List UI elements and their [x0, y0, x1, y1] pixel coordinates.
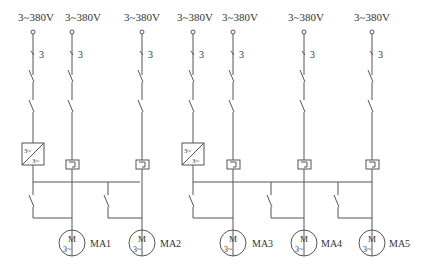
terminal-icon: [231, 30, 235, 34]
switch-icon: [189, 195, 194, 207]
svg-text:3: 3: [199, 49, 204, 60]
overload-relay-icon: [298, 160, 311, 169]
svg-text:3~: 3~: [63, 245, 72, 254]
motor-label: MA3: [252, 238, 273, 249]
supply-label-5: 3~380V: [222, 11, 258, 23]
branch-converter-2: 3 3~ 3~: [182, 30, 204, 182]
switch-icon: [334, 195, 339, 207]
branch-ma2: 3 M 3~ MA2: [104, 30, 181, 256]
switch-icon: [267, 195, 272, 207]
motor-label: MA4: [321, 238, 342, 249]
svg-text:3~: 3~: [224, 245, 233, 254]
branch-ma5: 3 M 3~ MA5: [334, 30, 410, 256]
svg-text:3: 3: [78, 49, 83, 60]
supply-label-3: 3~380V: [124, 11, 160, 23]
overload-relay-icon: [136, 160, 149, 169]
supply-label-1: 3~380V: [18, 11, 54, 23]
overload-relay-icon: [227, 160, 240, 169]
supply-label-6: 3~380V: [288, 11, 324, 23]
svg-text:3~: 3~: [295, 245, 304, 254]
supply-label-4: 3~380V: [177, 11, 213, 23]
switch-icon: [29, 100, 34, 112]
svg-text:3~: 3~: [184, 147, 192, 155]
supply-label-7: 3~380V: [354, 11, 390, 23]
switch-icon: [104, 195, 109, 207]
terminal-icon: [140, 30, 144, 34]
switch-icon: [300, 100, 305, 112]
svg-text:3: 3: [310, 49, 315, 60]
terminal-icon: [70, 30, 74, 34]
switch-icon: [229, 100, 234, 112]
supply-label-2: 3~380V: [65, 11, 101, 23]
svg-text:M: M: [68, 234, 76, 244]
branch-ma4: 3 M 3~ MA4: [267, 30, 342, 256]
svg-text:M: M: [300, 234, 308, 244]
svg-text:3: 3: [239, 49, 244, 60]
motor-label: MA2: [160, 238, 181, 249]
overload-relay-icon: [366, 160, 379, 169]
svg-text:3~: 3~: [32, 157, 40, 165]
terminal-icon: [191, 30, 195, 34]
pole-count: 3: [39, 49, 44, 60]
branch-converter-1: 3 3~ 3~: [22, 30, 44, 182]
switch-icon: [189, 100, 194, 112]
svg-text:3~: 3~: [24, 147, 32, 155]
switch-icon: [368, 100, 373, 112]
switch-icon: [68, 100, 73, 112]
overload-relay-icon: [66, 160, 79, 169]
switch-icon: [29, 195, 34, 207]
switch-icon: [138, 100, 143, 112]
terminal-icon: [302, 30, 306, 34]
svg-text:3~: 3~: [133, 245, 142, 254]
svg-text:M: M: [229, 234, 237, 244]
circuit-diagram: 3~380V 3~380V 3~380V 3~380V 3~380V 3~380…: [0, 0, 429, 274]
svg-text:M: M: [138, 234, 146, 244]
motor-label: MA1: [90, 238, 111, 249]
motor-label: MA5: [389, 238, 410, 249]
terminal-icon: [370, 30, 374, 34]
svg-text:3: 3: [378, 49, 383, 60]
svg-text:3: 3: [148, 49, 153, 60]
terminal-icon: [31, 30, 35, 34]
svg-text:3~: 3~: [363, 245, 372, 254]
svg-text:M: M: [368, 234, 376, 244]
svg-text:3~: 3~: [192, 157, 200, 165]
